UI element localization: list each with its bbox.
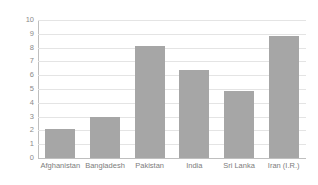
x-tick-label: Pakistan bbox=[135, 162, 164, 170]
y-tick-label: 6 bbox=[4, 71, 34, 79]
y-tick-label: 10 bbox=[4, 16, 34, 24]
x-tick-label: Bangladesh bbox=[85, 162, 125, 170]
y-tick-label: 4 bbox=[4, 99, 34, 107]
y-tick-label: 1 bbox=[4, 140, 34, 148]
y-tick-label: 7 bbox=[4, 57, 34, 65]
x-tick-label: Iran (I.R.) bbox=[268, 162, 300, 170]
y-tick-label: 8 bbox=[4, 44, 34, 52]
x-axis-category-labels: AfghanistanBangladeshPakistanIndiaSri La… bbox=[38, 162, 306, 182]
plot-area bbox=[38, 20, 306, 158]
bar bbox=[224, 91, 254, 158]
bar bbox=[179, 70, 209, 158]
bar bbox=[45, 129, 75, 158]
x-tick-label: Sri Lanka bbox=[223, 162, 255, 170]
bar-chart: 012345678910 AfghanistanBangladeshPakist… bbox=[0, 0, 318, 185]
y-axis-tick-labels: 012345678910 bbox=[0, 0, 34, 185]
y-tick-label: 0 bbox=[4, 154, 34, 162]
y-tick-label: 9 bbox=[4, 30, 34, 38]
x-tick-label: Afghanistan bbox=[41, 162, 81, 170]
bar bbox=[269, 36, 299, 158]
y-tick-label: 2 bbox=[4, 126, 34, 134]
bar-series bbox=[38, 20, 306, 158]
x-tick-label: India bbox=[186, 162, 202, 170]
gridline bbox=[38, 158, 306, 159]
bar bbox=[90, 117, 120, 158]
y-tick-label: 5 bbox=[4, 85, 34, 93]
bar bbox=[135, 46, 165, 158]
y-tick-label: 3 bbox=[4, 113, 34, 121]
